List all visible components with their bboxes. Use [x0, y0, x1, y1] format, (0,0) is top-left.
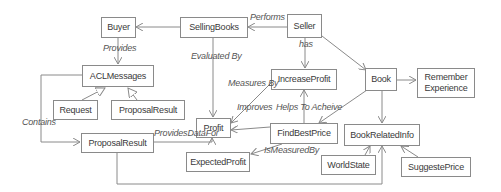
node-label: ProposalResult	[119, 105, 177, 116]
edge-proposalresult-aclmessages	[128, 88, 137, 100]
node-buyer[interactable]: Buyer	[101, 17, 136, 38]
node-acl-messages[interactable]: ACLMessages	[82, 65, 154, 87]
edge-label-evaluated-by: Evaluated By	[191, 51, 242, 61]
node-find-best-price[interactable]: FindBestPrice	[270, 123, 338, 144]
edge-label-contains: Contains	[22, 117, 56, 127]
edge-label-has: has	[299, 39, 313, 49]
node-remember-experience[interactable]: Remember Experience	[417, 68, 475, 98]
node-label: ProposalResult	[88, 138, 146, 149]
node-proposal-result-bottom[interactable]: ProposalResult	[81, 133, 154, 153]
node-label: Book	[371, 74, 391, 85]
edge-label-provides-data-for: ProvidesDataFor	[154, 128, 219, 138]
node-suggeste-price[interactable]: SuggestePrice	[401, 157, 471, 177]
edge-label-measures-by: Measures By	[228, 78, 278, 88]
node-world-state[interactable]: WorldState	[321, 155, 376, 175]
edge-label-helps-to-acheive: Helps To Acheive	[276, 102, 342, 112]
edge-worldstate-bookrelatedinfo	[365, 146, 370, 155]
edge-request-aclmessages	[82, 88, 105, 100]
node-label: Seller	[294, 21, 316, 32]
node-seller[interactable]: Seller	[287, 14, 322, 38]
node-label: ExpectedProfit	[190, 157, 246, 168]
node-label: BookRelatedInfo	[350, 130, 414, 141]
node-label: SellingBooks	[189, 22, 239, 33]
edge-findbestprice-profit	[231, 127, 270, 130]
edge-label-improves: Improves	[237, 102, 272, 112]
node-expected-profit[interactable]: ExpectedProfit	[186, 152, 250, 172]
edge-suggesteprice-bookrelatedinfo	[401, 146, 418, 157]
node-request[interactable]: Request	[53, 100, 98, 120]
edge-label-performs: Performs	[250, 12, 285, 22]
edge-label-provides: Provides	[103, 43, 136, 53]
node-proposal-result-top[interactable]: ProposalResult	[111, 100, 185, 120]
node-label: Remember Experience	[424, 72, 468, 94]
node-label: FindBestPrice	[277, 128, 330, 139]
node-label: ACLMessages	[90, 71, 146, 82]
node-book-related-info[interactable]: BookRelatedInfo	[344, 124, 420, 146]
node-book[interactable]: Book	[365, 68, 397, 91]
edge-label-is-measured-by: IsMeasuredBy	[264, 145, 319, 155]
ontology-diagram: Buyer SellingBooks Seller ACLMessages Re…	[0, 0, 501, 192]
node-increase-profit[interactable]: IncreaseProfit	[271, 69, 337, 90]
edge-seller-book	[322, 36, 366, 70]
node-label: Request	[59, 105, 91, 116]
node-label: IncreaseProfit	[278, 74, 331, 85]
node-selling-books[interactable]: SellingBooks	[180, 17, 248, 38]
node-label: Buyer	[107, 22, 130, 33]
node-label: WorldState	[327, 160, 369, 171]
edge-proposalresult-profit	[154, 138, 212, 142]
node-label: SuggestePrice	[408, 162, 464, 173]
